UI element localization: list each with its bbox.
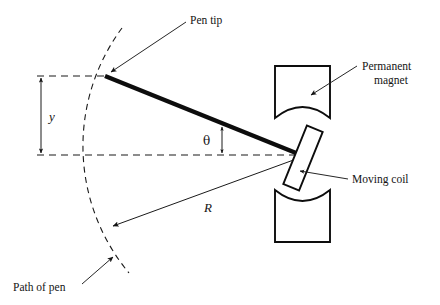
figure-canvas: y θ R Pen tip Permanent magnet Moving co… (0, 0, 440, 305)
theta-angle-label: θ (203, 134, 210, 148)
moving-coil-rect (283, 126, 322, 191)
permanent-magnet-bottom (275, 190, 330, 242)
permanent-magnet-label-line2: magnet (374, 74, 409, 87)
moving-coil-leader-line (300, 171, 348, 179)
y-dimension-label: y (47, 109, 55, 124)
pen-tip-label: Pen tip (190, 14, 223, 27)
path-of-pen-label: Path of pen (13, 281, 66, 294)
radius-R-label: R (203, 200, 212, 215)
moving-coil-label: Moving coil (352, 173, 409, 186)
permanent-magnet-label-line1: Permanent (362, 60, 412, 72)
radius-R-arrow (113, 158, 299, 226)
path-of-pen-leader-line (82, 257, 113, 284)
diagram-svg: y θ R Pen tip Permanent magnet Moving co… (0, 0, 440, 305)
permanent-magnet-top (275, 66, 330, 118)
pen-tip-leader-line (111, 22, 186, 72)
